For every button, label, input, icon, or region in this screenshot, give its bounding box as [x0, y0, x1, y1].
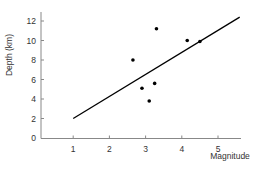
y-axis-label: Depth (km) [4, 34, 14, 76]
y-tick-label: 10 [27, 36, 37, 46]
x-tick-label: 3 [143, 144, 148, 154]
scatter-chart: 02468101212345 Depth (km) Magnitude [0, 0, 255, 170]
data-point [140, 86, 144, 90]
y-tick-label: 2 [31, 114, 36, 124]
x-tick-label: 4 [179, 144, 184, 154]
trend-line [73, 17, 240, 118]
y-tick-label: 8 [31, 55, 36, 65]
y-tick-label: 12 [27, 16, 37, 26]
axes [41, 12, 241, 139]
data-point [131, 58, 135, 62]
data-point [147, 99, 151, 103]
data-point [198, 40, 202, 44]
regression-line [73, 17, 240, 118]
y-tick-label: 4 [31, 94, 36, 104]
data-point [153, 82, 157, 86]
data-point [185, 39, 189, 43]
data-points [131, 27, 202, 103]
x-axis-label: Magnitude [210, 151, 250, 161]
x-tick-label: 2 [107, 144, 112, 154]
x-tick-label: 1 [71, 144, 76, 154]
y-tick-label: 0 [31, 133, 36, 143]
plot-area: 02468101212345 Depth (km) Magnitude [0, 0, 255, 170]
ticks: 02468101212345 [27, 16, 221, 154]
y-tick-label: 6 [31, 75, 36, 85]
data-point [155, 27, 159, 31]
